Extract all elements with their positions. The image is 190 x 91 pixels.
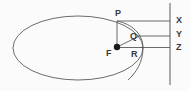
label-f: F xyxy=(106,49,112,58)
ellipse-outline xyxy=(13,16,143,80)
geometry-figure: P Q R F X Y Z xyxy=(0,0,190,91)
label-q: Q xyxy=(130,32,137,41)
label-r: R xyxy=(131,50,138,59)
inner-arc xyxy=(117,21,143,80)
label-x: X xyxy=(176,16,182,25)
focus-point-dot xyxy=(114,44,120,50)
figure-canvas xyxy=(0,0,190,91)
label-z: Z xyxy=(176,43,182,52)
label-p: P xyxy=(115,9,121,18)
label-y: Y xyxy=(176,30,182,39)
